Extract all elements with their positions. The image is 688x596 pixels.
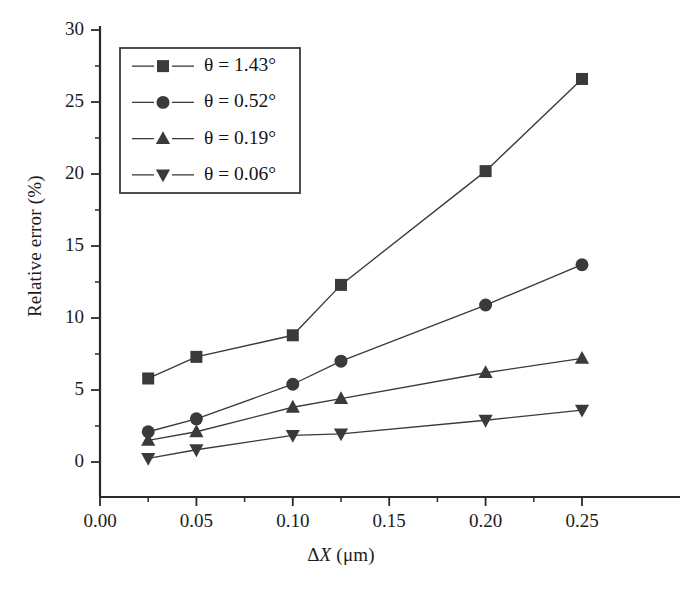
y-tick-label-0: 0 — [75, 450, 85, 472]
series-line-2 — [148, 358, 582, 440]
x-tick-label-3: 0.15 — [373, 510, 406, 532]
data-point-0-3 — [335, 279, 347, 291]
x-axis-title: ΔX (μm) — [307, 544, 375, 566]
relative-error-line-chart: 0.000.050.100.150.200.25 051015202530 θ … — [0, 0, 688, 596]
plot-canvas — [0, 0, 688, 596]
y-tick-label-3: 15 — [65, 234, 84, 256]
data-point-0-2 — [287, 329, 299, 341]
data-point-0-5 — [576, 73, 588, 85]
x-tick-label-1: 0.05 — [180, 510, 213, 532]
data-point-0-1 — [190, 351, 202, 363]
x-tick-label-5: 0.25 — [565, 510, 598, 532]
x-axis-title-units: (μm) — [331, 544, 374, 565]
data-point-1-1 — [190, 412, 203, 425]
series-line-1 — [148, 265, 582, 432]
data-point-2-5 — [575, 351, 589, 364]
data-point-0-0 — [142, 372, 154, 384]
y-tick-label-5: 25 — [65, 90, 84, 112]
y-tick-label-1: 5 — [75, 378, 85, 400]
data-point-1-3 — [335, 355, 348, 368]
legend-label-2: θ = 0.19° — [204, 127, 276, 149]
data-point-0-4 — [480, 165, 492, 177]
series-line-3 — [148, 410, 582, 458]
legend-marker-circle — [157, 96, 170, 109]
data-point-1-5 — [576, 258, 589, 271]
x-tick-label-2: 0.10 — [276, 510, 309, 532]
x-axis-title-variable: X — [320, 544, 332, 565]
data-point-3-0 — [141, 453, 155, 466]
data-point-1-4 — [479, 299, 492, 312]
legend-marker-square — [157, 60, 169, 72]
legend-label-1: θ = 0.52° — [204, 90, 276, 112]
x-tick-label-4: 0.20 — [469, 510, 502, 532]
data-point-3-3 — [334, 429, 348, 442]
y-tick-label-2: 10 — [65, 306, 84, 328]
y-tick-label-6: 30 — [65, 18, 84, 40]
legend-label-3: θ = 0.06° — [204, 163, 276, 185]
x-tick-label-0: 0.00 — [83, 510, 116, 532]
y-axis-title: Relative error (%) — [24, 175, 46, 317]
x-axis-title-delta: Δ — [307, 544, 319, 565]
y-tick-label-4: 20 — [65, 162, 84, 184]
data-point-1-2 — [286, 378, 299, 391]
legend-label-0: θ = 1.43° — [204, 54, 276, 76]
